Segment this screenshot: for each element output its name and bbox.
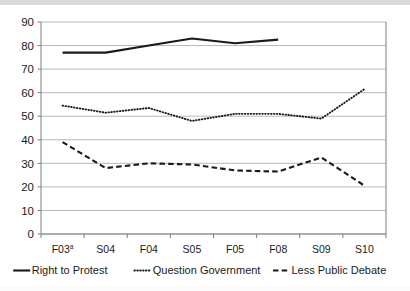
legend-label: Question Government bbox=[153, 264, 261, 276]
legend-label: Right to Protest bbox=[32, 264, 108, 276]
x-axis-tick-labels: F03aS04F04S05F05F08S09S10 bbox=[52, 243, 374, 255]
y-axis-label: 60 bbox=[21, 87, 34, 99]
chart-legend: Right to ProtestQuestion GovernmentLess … bbox=[13, 264, 386, 276]
y-axis-tick-labels: 0102030405060708090 bbox=[21, 16, 34, 240]
x-axis-label: S05 bbox=[183, 243, 202, 255]
y-axis-label: 40 bbox=[21, 134, 34, 146]
line-chart: 0102030405060708090 F03aS04F04S05F05F08S… bbox=[0, 0, 410, 291]
x-axis-label: S04 bbox=[96, 243, 115, 255]
x-axis-label: F05 bbox=[226, 243, 244, 255]
series-line-dashed bbox=[63, 142, 365, 186]
x-axis-label: F03a bbox=[52, 243, 74, 255]
chart-canvas: 0102030405060708090 F03aS04F04S05F05F08S… bbox=[0, 0, 410, 291]
x-axis-label: F04 bbox=[140, 243, 158, 255]
x-axis-label: F08 bbox=[269, 243, 287, 255]
x-axis-label: S10 bbox=[355, 243, 374, 255]
y-axis-label: 70 bbox=[21, 63, 34, 75]
y-axis-label: 20 bbox=[21, 181, 34, 193]
y-axis-label: 80 bbox=[21, 40, 34, 52]
legend-label: Less Public Debate bbox=[291, 264, 386, 276]
y-axis-label: 10 bbox=[21, 205, 34, 217]
x-axis-label: S09 bbox=[312, 243, 331, 255]
y-axis-label: 30 bbox=[21, 158, 34, 170]
y-axis-label: 50 bbox=[21, 110, 34, 122]
gridlines bbox=[38, 22, 387, 234]
y-axis-label: 90 bbox=[21, 16, 34, 28]
x-axis-tickmarks bbox=[41, 234, 386, 238]
y-axis-label: 0 bbox=[28, 228, 34, 240]
